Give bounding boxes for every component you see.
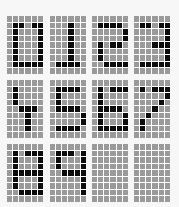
pixel-off: [75, 196, 80, 202]
pixel-off: [75, 42, 80, 48]
pixel-off: [19, 177, 24, 183]
pixel-off: [117, 177, 122, 183]
pixel-off: [146, 87, 151, 93]
pixel-off: [75, 132, 80, 138]
pixel-on: [110, 23, 115, 29]
pixel-off: [25, 144, 30, 150]
pixel-off: [92, 126, 97, 132]
pixel-off: [7, 119, 12, 125]
pixel-off: [75, 157, 80, 163]
pixel-off: [25, 157, 30, 163]
pixel-off: [92, 113, 97, 119]
pixel-off: [38, 106, 43, 112]
pixel-on: [165, 36, 170, 42]
pixel-on: [25, 190, 30, 196]
pixel-off: [110, 29, 115, 35]
pixel-off: [75, 113, 80, 119]
pixel-off: [152, 183, 157, 189]
pixel-on: [68, 42, 73, 48]
pixel-off: [7, 36, 12, 42]
pixel-off: [68, 16, 73, 22]
pixel-off: [159, 132, 164, 138]
pixel-off: [152, 190, 157, 196]
pixel-off: [62, 36, 67, 42]
pixel-on: [165, 42, 170, 48]
pixel-on: [56, 93, 61, 99]
pixel-off: [19, 164, 24, 170]
pixel-on: [140, 87, 145, 93]
pixel-on: [13, 42, 18, 48]
pixel-on: [62, 62, 67, 68]
pixel-off: [68, 183, 73, 189]
pixel-on: [68, 55, 73, 61]
pixel-off: [13, 113, 18, 119]
pixel-off: [117, 157, 122, 163]
pixel-on: [13, 36, 18, 42]
pixel-on: [98, 119, 103, 125]
pixel-off: [38, 144, 43, 150]
pixel-off: [152, 80, 157, 86]
pixel-off: [25, 16, 30, 22]
pixel-off: [92, 164, 97, 170]
pixel-off: [75, 183, 80, 189]
pixel-off: [140, 49, 145, 55]
pixel-off: [81, 196, 86, 202]
pixel-off: [7, 100, 12, 106]
pixel-off: [123, 93, 128, 99]
pixel-on: [75, 106, 80, 112]
pixel-off: [98, 80, 103, 86]
pixel-on: [56, 87, 61, 93]
pixel-off: [75, 177, 80, 183]
pixel-on: [98, 106, 103, 112]
pixel-off: [98, 36, 103, 42]
pixel-on: [13, 55, 18, 61]
pixel-on: [32, 62, 37, 68]
pixel-off: [75, 49, 80, 55]
pixel-on: [123, 119, 128, 125]
pixel-off: [123, 23, 128, 29]
pixel-off: [38, 80, 43, 86]
pixel-off: [123, 190, 128, 196]
pixel-off: [159, 55, 164, 61]
pixel-off: [19, 36, 24, 42]
pixel-off: [38, 126, 43, 132]
pixel-off: [92, 196, 97, 202]
pixel-off: [152, 119, 157, 125]
pixel-off: [32, 119, 37, 125]
pixel-on: [13, 100, 18, 106]
pixel-off: [81, 16, 86, 22]
digit-pixel-grid-board: [0, 0, 179, 207]
pixel-off: [25, 42, 30, 48]
pixel-off: [62, 93, 67, 99]
pixel-off: [146, 49, 151, 55]
pixel-off: [7, 23, 12, 29]
pixel-off: [159, 157, 164, 163]
pixel-off: [146, 151, 151, 157]
pixel-off: [68, 144, 73, 150]
pixel-on: [38, 151, 43, 157]
pixel-off: [98, 157, 103, 163]
pixel-off: [140, 68, 145, 74]
pixel-off: [146, 144, 151, 150]
digit-cell-5: [50, 80, 86, 138]
pixel-on: [110, 126, 115, 132]
pixel-on: [25, 126, 30, 132]
pixel-off: [98, 196, 103, 202]
pixel-off: [123, 144, 128, 150]
pixel-off: [50, 151, 55, 157]
pixel-off: [75, 119, 80, 125]
pixel-off: [75, 164, 80, 170]
pixel-on: [98, 93, 103, 99]
pixel-off: [50, 196, 55, 202]
pixel-off: [165, 119, 170, 125]
pixel-on: [19, 62, 24, 68]
pixel-off: [56, 177, 61, 183]
pixel-off: [110, 93, 115, 99]
pixel-off: [19, 183, 24, 189]
pixel-off: [50, 16, 55, 22]
pixel-off: [159, 49, 164, 55]
pixel-on: [56, 126, 61, 132]
pixel-off: [152, 49, 157, 55]
pixel-off: [165, 157, 170, 163]
pixel-off: [152, 196, 157, 202]
